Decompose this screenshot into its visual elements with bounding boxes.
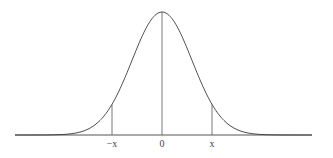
label-zero: 0 xyxy=(160,138,165,149)
label-neg-x: −x xyxy=(107,138,118,149)
bell-curve xyxy=(15,12,312,135)
label-pos-x: x xyxy=(210,138,215,149)
normal-distribution-diagram: −x 0 x xyxy=(0,0,333,158)
